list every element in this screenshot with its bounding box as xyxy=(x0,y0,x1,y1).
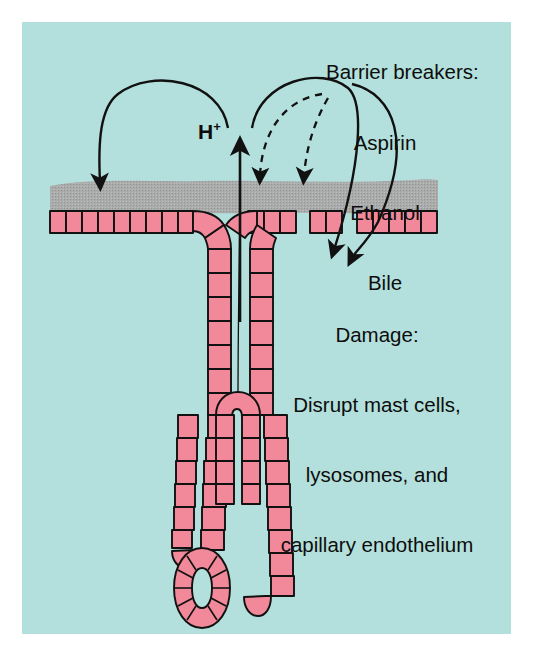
damage-line-3: capillary endothelium xyxy=(272,533,482,556)
surface-epithelium-left xyxy=(50,211,193,233)
gastric-pit-left-wall xyxy=(193,211,231,415)
damage-line-1: Disrupt mast cells, xyxy=(272,393,482,416)
gland-central-u-tubule xyxy=(216,392,260,504)
damage-line-2: lysosomes, and xyxy=(272,463,482,486)
acid-label: H+ xyxy=(198,120,221,144)
diagram-panel: H+ Barrier breakers: Aspirin Ethanol Bil… xyxy=(22,22,511,634)
figure-container: H+ Barrier breakers: Aspirin Ethanol Bil… xyxy=(0,0,535,664)
gland-inner-left-tubule xyxy=(172,415,198,548)
acid-label-superscript: + xyxy=(213,119,221,134)
gland-cross-section-oval xyxy=(174,548,230,628)
barrier-breaker-item-aspirin: Aspirin xyxy=(318,131,452,154)
damage-caption: Damage: Disrupt mast cells, lysosomes, a… xyxy=(272,276,482,603)
damage-heading: Damage: xyxy=(272,323,482,346)
gastric-pit-right-wall xyxy=(226,211,276,415)
acid-label-text: H xyxy=(198,120,213,143)
barrier-breaker-item-ethanol: Ethanol xyxy=(318,201,452,224)
barrier-breakers-heading: Barrier breakers: xyxy=(326,60,479,83)
